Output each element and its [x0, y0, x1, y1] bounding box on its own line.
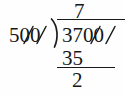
divisor-value: 500 [9, 25, 41, 46]
division-vinculum [57, 19, 125, 20]
dividend-value: 3700 [62, 25, 104, 46]
division-bracket-icon [50, 18, 62, 48]
subtraction-bar [57, 67, 115, 68]
remainder-value: 2 [72, 70, 83, 91]
cancel-slash-icon [104, 25, 118, 45]
subtrahend-value: 35 [62, 48, 83, 69]
long-division-worksheet: 7 500 3700 35 2 [0, 0, 125, 97]
